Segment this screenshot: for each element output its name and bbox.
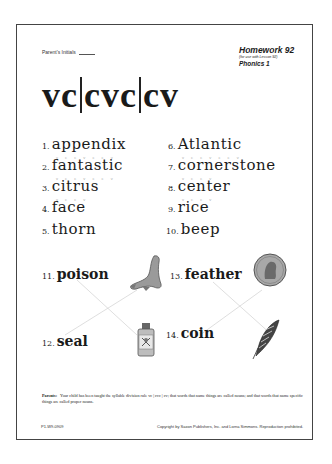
seal-picture xyxy=(128,254,164,292)
word: coin xyxy=(181,325,214,341)
word: feather xyxy=(185,266,242,282)
parent-note-text: Your child has been taught the syllable … xyxy=(42,393,303,404)
match-item-12: 12.seal xyxy=(42,333,88,352)
feather-picture xyxy=(252,318,282,360)
word: seal xyxy=(57,333,88,349)
word: poison xyxy=(57,266,109,282)
poison-bottle-picture xyxy=(135,322,157,358)
match-item-14: 14.coin xyxy=(166,325,214,344)
parent-note-label: Parents: xyxy=(42,393,57,398)
match-item-13: 13.feather xyxy=(170,266,242,285)
match-item-11: 11.poison xyxy=(42,266,109,285)
footer-code: P1-W9-0909 xyxy=(41,424,63,429)
item-number: 13. xyxy=(170,272,183,281)
penny-coin-picture xyxy=(253,253,287,287)
footer-copyright: Copyright by Saxon Publishers, Inc. and … xyxy=(157,424,303,429)
parent-note: Parents:Your child has been taught the s… xyxy=(42,393,310,404)
item-number: 14. xyxy=(166,331,179,340)
item-number: 11. xyxy=(42,272,55,281)
item-number: 12. xyxy=(42,339,55,348)
